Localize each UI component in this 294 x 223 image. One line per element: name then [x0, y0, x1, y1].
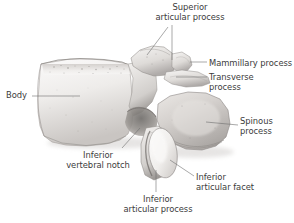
label-inferior-articular-facet: Inferior articular facet	[196, 172, 254, 192]
label-inferior-articular-process: Inferior articular process	[112, 194, 204, 214]
anatomy-figure: Superior articular process Mammillary pr…	[0, 0, 294, 223]
label-superior-articular-process: Superior articular process	[147, 2, 233, 22]
label-transverse-process: Transverse process	[209, 72, 254, 92]
transverse-process	[164, 70, 210, 87]
label-mammillary-process: Mammillary process	[209, 58, 292, 68]
label-spinous-process: Spinous process	[240, 116, 273, 136]
label-inferior-vertebral-notch: Inferior vertebral notch	[52, 150, 144, 170]
label-body: Body	[6, 90, 27, 100]
vertebral-body	[38, 59, 133, 147]
mammillary-process	[172, 52, 192, 72]
